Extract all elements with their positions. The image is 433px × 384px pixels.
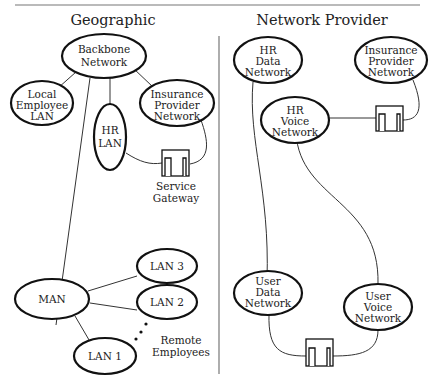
node-backbone-network[interactable]: Backbone Network — [62, 34, 146, 78]
node-man[interactable]: MAN — [15, 279, 89, 319]
svg-text:HR: HR — [101, 124, 119, 136]
node-lan-3[interactable]: LAN 3 — [137, 249, 197, 283]
right-panel-title: Network Provider — [256, 12, 388, 28]
node-insurance-provider-network-right[interactable]: Insurance Provider Network — [355, 37, 427, 83]
node-lan-1[interactable]: LAN 1 — [74, 338, 136, 374]
svg-text:Network: Network — [154, 110, 201, 122]
svg-text:Network: Network — [81, 56, 128, 68]
svg-text:LAN 3: LAN 3 — [150, 260, 184, 272]
svg-text:LAN 1: LAN 1 — [88, 350, 122, 362]
svg-text:LAN 2: LAN 2 — [150, 296, 184, 308]
svg-text:LAN: LAN — [30, 110, 54, 122]
svg-text:LAN: LAN — [98, 137, 122, 149]
node-insurance-provider-network-left[interactable]: Insurance Provider Network — [140, 80, 214, 126]
node-user-data-network[interactable]: User Data Network — [234, 271, 302, 315]
svg-text:Backbone: Backbone — [78, 43, 130, 55]
gateway-box-icon — [162, 150, 189, 176]
service-gateway-label: Service — [156, 180, 196, 192]
remote-employees-label: Employees — [152, 346, 210, 358]
gateway-box-icon — [376, 106, 403, 131]
svg-text:MAN: MAN — [38, 293, 66, 305]
node-hr-lan[interactable]: HR LAN — [94, 104, 126, 170]
remote-employees-label: Remote — [161, 334, 202, 346]
vertical-dots-icon — [134, 322, 147, 340]
node-local-employee-lan[interactable]: Local Employee LAN — [11, 81, 73, 125]
gateway-box-icon — [306, 339, 333, 366]
service-gateway-label: Gateway — [153, 192, 199, 204]
svg-text:Network: Network — [272, 126, 319, 138]
node-hr-data-network[interactable]: HR Data Network — [234, 37, 302, 83]
node-user-voice-network[interactable]: User Voice Network — [344, 284, 412, 330]
network-diagram: Geographic Network Provider Backbone Net… — [0, 0, 433, 384]
svg-text:Network: Network — [245, 297, 292, 309]
node-hr-voice-network[interactable]: HR Voice Network — [261, 97, 329, 143]
svg-text:Network: Network — [368, 66, 415, 78]
svg-text:Network: Network — [245, 66, 292, 78]
left-panel-title: Geographic — [70, 12, 155, 28]
svg-text:Network: Network — [355, 312, 402, 324]
node-lan-2[interactable]: LAN 2 — [137, 285, 197, 319]
